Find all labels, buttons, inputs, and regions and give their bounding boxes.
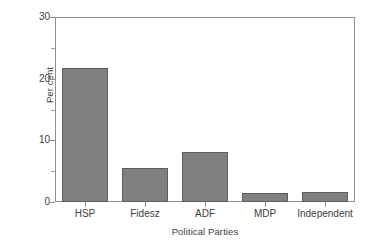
y-axis-tick-label: 0 [24, 197, 50, 207]
bar-independent [302, 192, 348, 202]
x-axis-title: Political Parties [55, 226, 355, 237]
y-axis-major-tick [49, 140, 55, 141]
x-axis-tick [85, 202, 86, 207]
y-axis-major-tick [49, 202, 55, 203]
x-axis-tick [205, 202, 206, 207]
y-axis-major-tick [49, 79, 55, 80]
x-axis-tick [145, 202, 146, 207]
bar-chart-figure: Per cent 0102030 Political Parties HSPFi… [0, 0, 372, 248]
y-axis-minor-tick [51, 110, 55, 111]
bar-fidesz [122, 168, 168, 202]
bar-adf [182, 152, 228, 202]
y-axis-tick-label: 30 [24, 12, 50, 22]
bars-layer [55, 17, 355, 202]
y-axis-minor-tick [51, 171, 55, 172]
y-axis-minor-tick [51, 48, 55, 49]
x-axis-tick [265, 202, 266, 207]
x-axis-tick [325, 202, 326, 207]
y-axis-major-tick [49, 17, 55, 18]
x-axis-tick-label: Independent [280, 208, 370, 220]
y-axis-tick-label: 20 [24, 74, 50, 84]
bar-hsp [62, 68, 108, 202]
y-axis-tick-label: 10 [24, 135, 50, 145]
bar-mdp [242, 193, 288, 202]
